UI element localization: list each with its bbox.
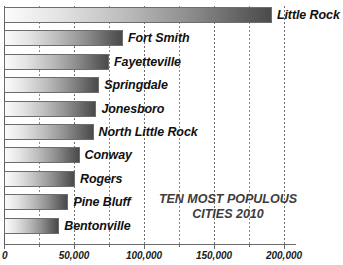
tick-mark-0 (4, 244, 5, 249)
bar-chart: TEN MOST POPULOUS CITIES 2010 Little Roc… (0, 0, 343, 265)
tick-mark-125000 (179, 244, 180, 247)
bar-row: North Little Rock (4, 124, 343, 140)
bar (4, 54, 109, 70)
x-axis-tick-label: 200,000 (266, 250, 302, 261)
x-axis-tick-label: 0 (2, 250, 8, 261)
bar (4, 77, 99, 93)
bar-row: Little Rock (4, 7, 343, 23)
bar-row: Bentonville (4, 218, 343, 234)
bar-label: Bentonville (64, 219, 130, 233)
bar-label: Jonesboro (101, 102, 164, 116)
bar (4, 171, 75, 187)
bar-label: Pine Bluff (73, 195, 130, 209)
tick-mark-175000 (249, 244, 250, 247)
x-axis-tick-label: 150,000 (196, 250, 232, 261)
bar-label: Little Rock (277, 8, 340, 22)
bar (4, 30, 123, 46)
tick-mark-50000 (74, 244, 75, 249)
bar (4, 194, 68, 210)
bar (4, 218, 59, 234)
bar-label: Rogers (80, 172, 122, 186)
x-axis-line (4, 244, 296, 245)
bar-row: Rogers (4, 171, 343, 187)
tick-mark-100000 (144, 244, 145, 249)
tick-mark-25000 (39, 244, 40, 247)
bar (4, 124, 94, 140)
bar-label: Fayetteville (114, 55, 181, 69)
x-axis-tick-label: 100,000 (126, 250, 162, 261)
bar-row: Jonesboro (4, 101, 343, 117)
bar-row: Fort Smith (4, 30, 343, 46)
x-axis-tick-label: 50,000 (59, 250, 90, 261)
bar-label: North Little Rock (99, 125, 198, 139)
bar (4, 7, 272, 23)
tick-mark-75000 (109, 244, 110, 247)
tick-mark-150000 (214, 244, 215, 249)
bar-row: Springdale (4, 77, 343, 93)
bar-row: Conway (4, 147, 343, 163)
bar-row: Fayetteville (4, 54, 343, 70)
bar-label: Springdale (104, 78, 168, 92)
bar (4, 147, 80, 163)
tick-mark-200000 (284, 244, 285, 249)
bar-label: Fort Smith (128, 31, 190, 45)
bar-label: Conway (85, 148, 132, 162)
bar-row: Pine Bluff (4, 194, 343, 210)
bar (4, 101, 96, 117)
